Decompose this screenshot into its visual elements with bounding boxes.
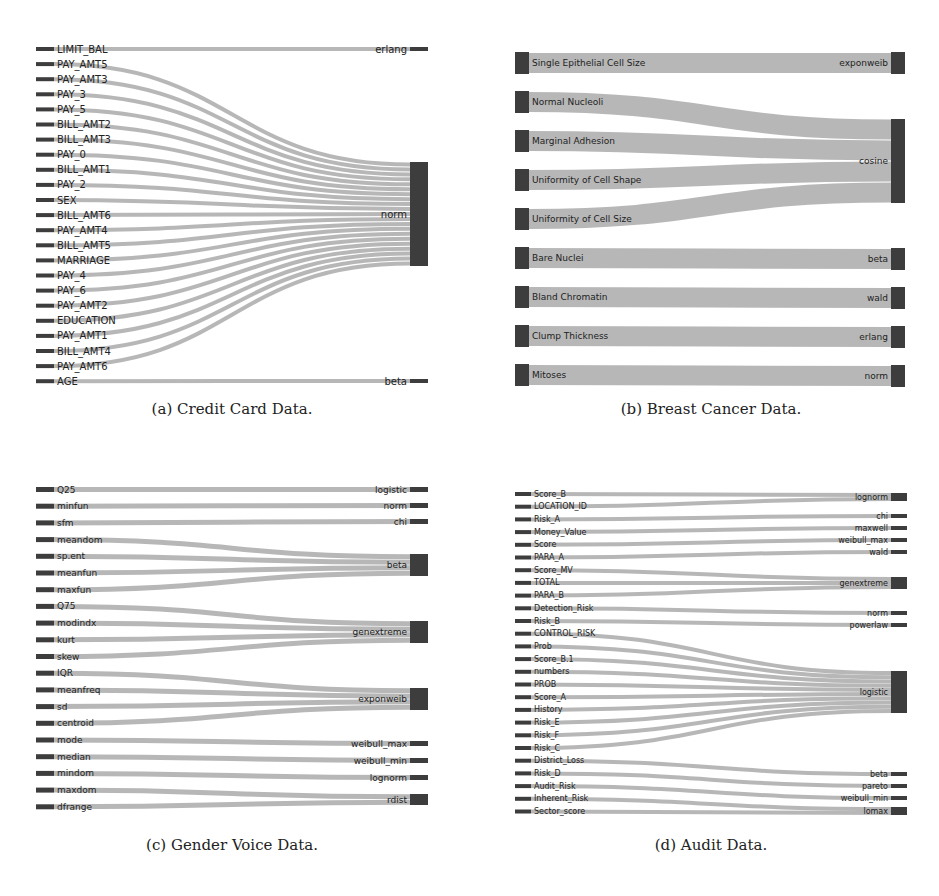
target-label: lomax — [863, 807, 888, 816]
link-para-a-to-wald — [531, 552, 891, 558]
link-minfun-to-norm — [54, 506, 410, 507]
link-mindom-to-lognorm — [54, 773, 410, 777]
target-label: logistic — [375, 485, 407, 495]
source-node-para-a — [515, 556, 531, 560]
source-node-pay-6 — [36, 289, 54, 293]
source-label: Score — [534, 540, 556, 549]
source-label: MARRIAGE — [57, 255, 110, 266]
source-label: PAY_4 — [57, 270, 86, 282]
source-label: mindom — [57, 768, 94, 778]
source-node-money-value — [515, 530, 531, 534]
source-node-sfm — [36, 520, 54, 525]
target-node-logistic — [891, 671, 907, 713]
target-node-chi — [891, 514, 907, 518]
link-para-b-to-genextreme — [531, 587, 891, 596]
link-sfm-to-chi — [54, 522, 410, 523]
link-risk-b-to-powerlaw — [531, 621, 891, 625]
source-node-single-epithelial-cell-size — [515, 52, 529, 74]
source-node-bill-amt1 — [36, 168, 54, 172]
source-node-pay-amt4 — [36, 228, 54, 232]
source-node-bill-amt6 — [36, 213, 54, 217]
source-node-age — [36, 379, 54, 383]
target-label: wald — [867, 293, 888, 303]
source-label: sd — [57, 702, 67, 712]
caption-breast-cancer: (b) Breast Cancer Data. — [621, 400, 802, 418]
target-label: beta — [868, 254, 888, 264]
source-label: Sector_score — [534, 807, 585, 816]
source-label: mode — [57, 735, 83, 745]
source-label: BILL_AMT4 — [57, 346, 111, 358]
caption-credit-card: (a) Credit Card Data. — [152, 400, 313, 418]
link-mitoses-to-norm — [529, 375, 891, 376]
target-node-weibull-min — [891, 796, 907, 800]
target-label: norm — [867, 609, 888, 618]
source-label: Clump Thickness — [532, 331, 609, 341]
source-node-pay-amt2 — [36, 304, 54, 308]
source-node-pay-amt6 — [36, 364, 54, 368]
source-label: SEX — [57, 195, 77, 206]
source-label: AGE — [57, 376, 78, 387]
target-node-lognorm — [891, 493, 907, 501]
source-node-clump-thickness — [515, 325, 529, 347]
source-label: PARA_A — [534, 553, 564, 562]
source-node-median — [36, 754, 54, 759]
source-node-normal-nucleoli — [515, 91, 529, 113]
source-label: numbers — [534, 667, 569, 676]
source-label: PROB — [534, 680, 556, 689]
source-label: Risk_B — [534, 617, 560, 626]
target-label: weibull_min — [354, 756, 407, 766]
source-label: IQR — [57, 668, 73, 678]
source-node-bill-amt4 — [36, 349, 54, 353]
target-node-norm — [410, 503, 428, 508]
source-label: sfm — [57, 518, 74, 528]
target-label: pareto — [862, 782, 888, 791]
source-node-score — [515, 543, 531, 547]
source-label: Q75 — [57, 601, 76, 611]
target-label: beta — [387, 560, 407, 570]
source-label: EDUCATION — [57, 315, 116, 326]
source-label: History — [534, 705, 563, 714]
source-label: Uniformity of Cell Shape — [532, 175, 642, 185]
target-label: exponweib — [839, 58, 888, 68]
target-node-lognorm — [410, 775, 428, 780]
source-node-pay-4 — [36, 274, 54, 278]
source-node-meanfun — [36, 571, 54, 576]
source-node-pay-2 — [36, 183, 54, 187]
target-node-beta — [410, 379, 428, 383]
source-node-location-id — [515, 505, 531, 509]
source-label: Risk_D — [534, 769, 561, 778]
source-label: Detection_Risk — [534, 604, 594, 613]
source-label: Mitoses — [532, 370, 567, 380]
source-node-score-b — [515, 492, 531, 496]
source-label: Score_B.1 — [534, 655, 574, 664]
source-label: BILL_AMT1 — [57, 164, 111, 176]
sankey-breast-cancer: Single Epithelial Cell SizeNormal Nucleo… — [515, 52, 905, 387]
source-node-inherent-risk — [515, 797, 531, 801]
target-label: beta — [870, 770, 888, 779]
link-risk-a-to-chi — [531, 516, 891, 519]
source-node-centroid — [36, 721, 54, 726]
source-node-q25 — [36, 487, 54, 492]
source-node-pay-3 — [36, 92, 54, 96]
target-label: erlang — [859, 332, 888, 342]
source-node-pay-amt3 — [36, 77, 54, 81]
source-node-q75 — [36, 604, 54, 609]
source-label: BILL_AMT3 — [57, 134, 111, 146]
target-label: beta — [384, 376, 407, 387]
source-node-prob — [515, 644, 531, 648]
source-label: LOCATION_ID — [534, 502, 587, 511]
target-node-beta — [891, 772, 907, 776]
target-node-genextreme — [891, 577, 907, 589]
source-node-limit-bal — [36, 47, 54, 51]
target-label: norm — [864, 371, 888, 381]
target-node-exponweib — [410, 688, 428, 710]
target-label: genextreme — [840, 579, 889, 588]
source-label: Normal Nucleoli — [532, 97, 603, 107]
source-label: Money_Value — [534, 528, 587, 537]
source-label: Bland Chromatin — [532, 292, 607, 302]
target-label: powerlaw — [850, 621, 889, 630]
target-node-weibull-min — [410, 758, 428, 763]
source-label: District_Loss — [534, 756, 584, 765]
target-label: chi — [394, 517, 407, 527]
source-label: sp.ent — [57, 551, 86, 561]
